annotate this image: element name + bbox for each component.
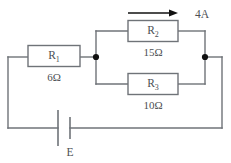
resistor-r3-value: 10Ω	[143, 100, 162, 111]
battery-label: E	[66, 147, 73, 159]
resistor-r2-value: 15Ω	[143, 47, 162, 58]
junction-dot-right	[202, 54, 208, 60]
junction-dot-left	[93, 54, 99, 60]
current-value-label: 4A	[195, 9, 209, 21]
resistor-r3-label: R3	[147, 78, 159, 92]
current-arrow-head-icon	[169, 9, 178, 16]
resistor-r2-label: R2	[147, 25, 159, 39]
resistor-r1-value: 6Ω	[47, 72, 61, 83]
circuit-schematic-canvas	[0, 0, 231, 163]
circuit-diagram: R1 6Ω R2 15Ω R3 10Ω 4A E	[0, 0, 231, 163]
resistor-r1-label: R1	[48, 50, 60, 64]
